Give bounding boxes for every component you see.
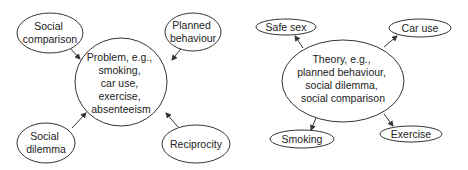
exercise-label: Exercise [391,128,431,140]
arrow-social-dilemma-to-problem [72,113,86,128]
reciprocity-label: Reciprocity [170,138,223,150]
arrow-reciprocity-to-problem [166,113,178,127]
safe-sex-label: Safe sex [266,21,308,33]
arrow-theory-to-smoking [311,118,316,130]
smoking-label: Smoking [282,133,323,145]
social-dilemma-label: Social dilemma [26,130,66,155]
planned-behaviour-label: Planned behaviour [170,19,217,44]
diagram-canvas: Problem, e.g., smoking, car use, exercis… [0,0,468,170]
theory-centered-diagram: Theory, e.g., planned behaviour, social … [256,19,451,148]
problem-centered-diagram: Problem, e.g., smoking, car use, exercis… [17,13,230,163]
arrow-theory-to-exercise [384,114,393,126]
arrow-theory-to-safe-sex [295,36,303,48]
car-use-label: Car use [402,22,439,34]
arrow-theory-to-car-use [384,36,397,47]
